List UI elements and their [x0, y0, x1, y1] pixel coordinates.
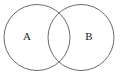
set-label-b: B	[85, 30, 92, 42]
venn-diagram-figure: A B	[0, 0, 121, 76]
set-label-a: A	[23, 30, 31, 42]
venn-diagram-canvas: A B	[0, 0, 121, 76]
